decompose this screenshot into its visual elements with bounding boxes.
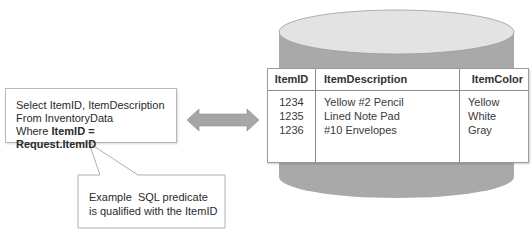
cell-itemdescription: Yellow #2 Pencil (324, 95, 459, 109)
sql-where-keyword: Where (16, 125, 51, 137)
sql-query-box: Select ItemID, ItemDescription From Inve… (5, 88, 177, 143)
header-itemcolor: ItemColor (468, 69, 528, 90)
callout-line-1: Example SQL predicate (89, 190, 224, 204)
cell-itemid: 1234 (268, 95, 315, 109)
cell-itemid: 1235 (268, 109, 315, 123)
column-itemdescription: ItemDescription Yellow #2 Pencil Lined N… (316, 69, 460, 162)
cell-itemcolor: Yellow (468, 95, 528, 109)
cylinder-top (279, 10, 514, 54)
header-itemid: ItemID (268, 69, 315, 90)
column-itemid: ItemID 1234 1235 1236 (268, 69, 316, 162)
callout-note: Example SQL predicate is qualified with … (79, 176, 224, 227)
inventory-table: ItemID 1234 1235 1236 ItemDescription Ye… (267, 68, 529, 163)
sql-line-from: From InventoryData (16, 112, 176, 125)
sql-line-select: Select ItemID, ItemDescription (16, 99, 176, 112)
cell-itemdescription: Lined Note Pad (324, 109, 459, 123)
cell-itemcolor: White (468, 109, 528, 123)
header-itemdescription: ItemDescription (324, 69, 459, 90)
callout-line-2: is qualified with the ItemID (89, 204, 224, 218)
cell-itemid: 1236 (268, 123, 315, 137)
cell-itemcolor: Gray (468, 123, 528, 137)
double-arrow-icon (187, 109, 259, 131)
column-itemcolor: ItemColor Yellow White Gray (461, 69, 528, 162)
cell-itemdescription: #10 Envelopes (324, 123, 459, 137)
sql-line-where: Where ItemID = Request.ItemID (16, 125, 176, 151)
